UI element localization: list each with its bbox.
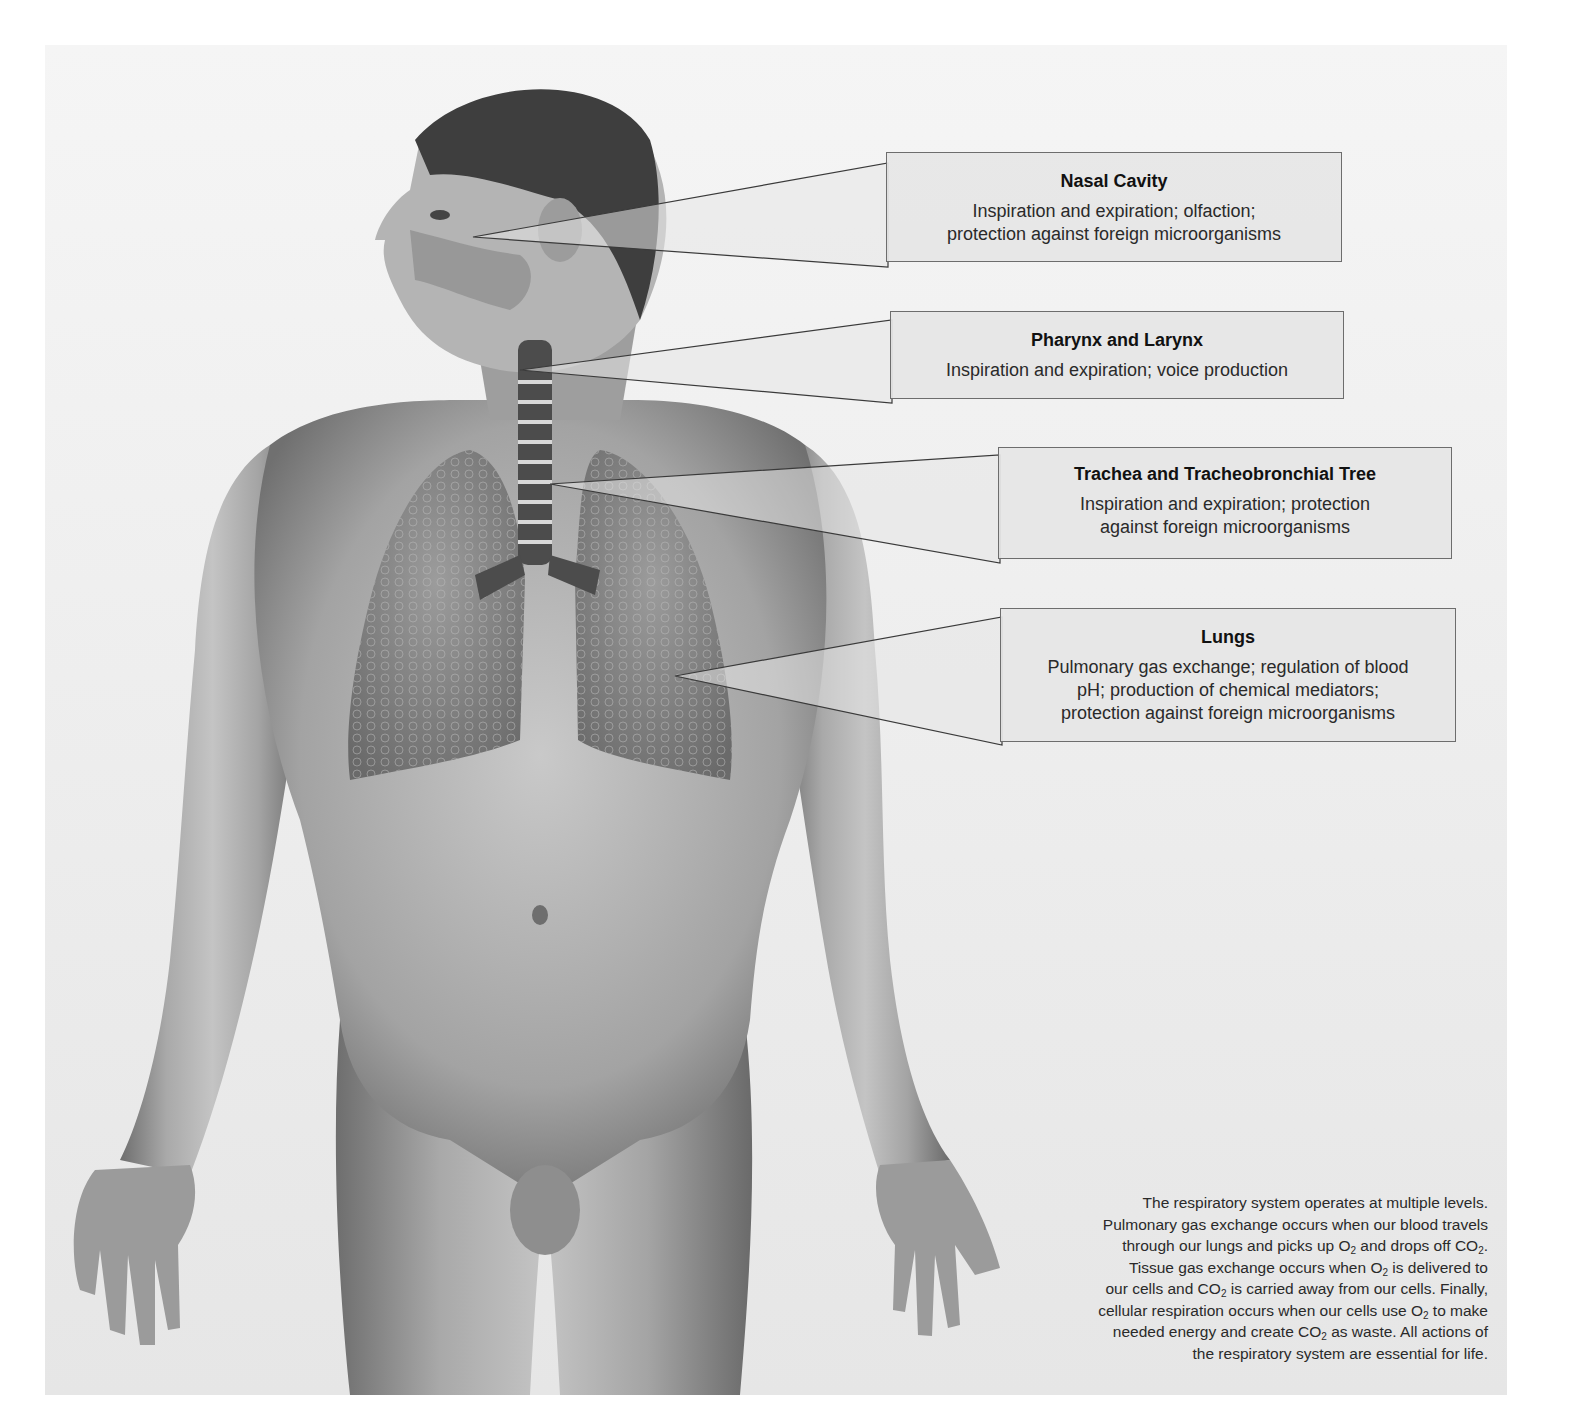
callout-nasal-cavity: Nasal Cavity Inspiration and expiration;… — [886, 152, 1342, 262]
callout-pharynx-larynx: Pharynx and Larynx Inspiration and expir… — [890, 311, 1344, 399]
callout-lungs: Lungs Pulmonary gas exchange; regulation… — [1000, 608, 1456, 742]
callout-description: Pulmonary gas exchange; regulation of bl… — [1001, 656, 1455, 725]
genital-region — [510, 1165, 580, 1255]
callout-title: Trachea and Tracheobronchial Tree — [999, 464, 1451, 485]
callout-title: Pharynx and Larynx — [891, 330, 1343, 351]
callout-description: Inspiration and expiration; olfaction; p… — [887, 200, 1341, 246]
figure-caption: The respiratory system operates at multi… — [1010, 1192, 1488, 1364]
callout-title: Nasal Cavity — [887, 171, 1341, 192]
callout-title: Lungs — [1001, 627, 1455, 648]
navel — [532, 905, 548, 925]
callout-description: Inspiration and expiration; protection a… — [999, 493, 1451, 539]
callout-description: Inspiration and expiration; voice produc… — [891, 359, 1343, 382]
callout-trachea-tree: Trachea and Tracheobronchial Tree Inspir… — [998, 447, 1452, 559]
